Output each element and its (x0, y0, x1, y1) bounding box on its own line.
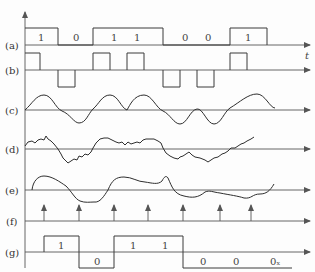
bit-label: 0 (200, 256, 206, 267)
row-label-b: (b) (5, 65, 19, 76)
bit-label: 1 (134, 32, 140, 43)
bit-label: 1 (130, 240, 136, 251)
bit-label: 1 (111, 32, 117, 43)
bit-label: 1 (38, 32, 44, 43)
bit-label: 1 (162, 240, 168, 251)
waveform-diagram: (a) (b) (c) (d) (e) (f) (g) 1 0 1 1 0 0 … (0, 0, 315, 272)
bit-label: 0 (233, 256, 239, 267)
row-label-f: (f) (6, 216, 18, 227)
row-label-d: (d) (5, 144, 19, 155)
row-label-c: (c) (5, 105, 19, 116)
bit-label: 0 (182, 32, 188, 43)
bit-label: 1 (245, 32, 251, 43)
waveform-d (25, 136, 310, 163)
waveform-g: 1 0 1 1 0 0 0ₓ (25, 236, 310, 268)
row-label-g: (g) (5, 247, 19, 258)
bit-label: 0 (205, 32, 211, 43)
waveform-c (25, 94, 310, 124)
bit-label: 0 (73, 32, 79, 43)
time-axis-label: t (305, 50, 310, 61)
waveform-a: 1 0 1 1 0 0 1 t (25, 28, 310, 61)
bit-label: 0 (94, 256, 100, 267)
sampling-impulses-f (25, 205, 310, 221)
waveform-b (25, 53, 310, 87)
row-label-a: (a) (5, 40, 19, 51)
waveform-e (25, 176, 310, 202)
signal-waveform-figure: (a) (b) (c) (d) (e) (f) (g) 1 0 1 1 0 0 … (0, 0, 315, 272)
bit-label: 0ₓ (270, 256, 281, 267)
row-label-e: (e) (5, 185, 19, 196)
bit-label: 1 (58, 240, 64, 251)
